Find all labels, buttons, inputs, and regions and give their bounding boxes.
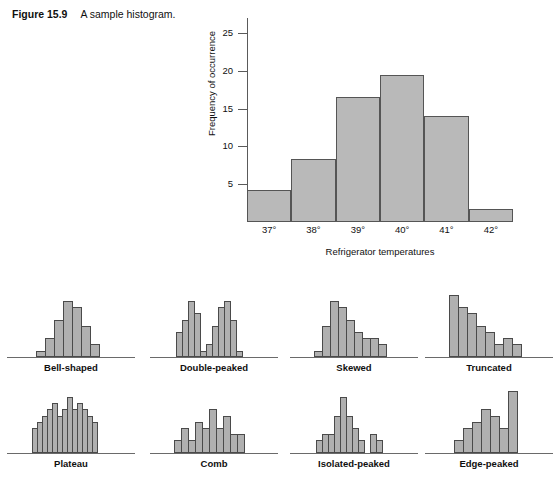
histogram-shape-panels: Bell-shapedDouble-peakedSkewedTruncatedP… [0, 292, 555, 478]
main-histogram: Frequency of occurrence 510152025 37°38°… [193, 6, 545, 268]
mini-plot-area [425, 390, 553, 454]
mini-plot-area [425, 294, 553, 358]
x-axis-label: Refrigerator temperatures [247, 246, 513, 257]
mini-plot-area [7, 294, 135, 358]
y-tick-label: 25 [222, 27, 233, 38]
mini-plot-area [150, 390, 278, 454]
histogram-bar [291, 159, 335, 222]
x-tick-label: 42° [469, 224, 513, 235]
mini-histogram-bar [378, 344, 387, 356]
mini-histogram-bar [358, 440, 365, 452]
mini-histogram-bars [36, 294, 106, 357]
y-tick: 25 [238, 33, 248, 34]
histogram-shape-panel: Bell-shaped [2, 292, 140, 382]
x-tick-label: 40° [380, 224, 424, 235]
figure-caption: Figure 15.9 A sample histogram. [12, 8, 192, 22]
figure-number: Figure 15.9 [12, 8, 67, 20]
y-tick-label: 5 [228, 178, 233, 189]
mini-histogram-bars [449, 294, 529, 357]
mini-baseline [7, 357, 135, 358]
mini-baseline [290, 357, 418, 358]
mini-plot-area [290, 294, 418, 358]
mini-baseline [150, 453, 278, 454]
y-tick: 20 [238, 71, 248, 72]
mini-histogram-bars [176, 294, 253, 357]
x-tick-label: 39° [336, 224, 380, 235]
mini-plot-area [7, 390, 135, 454]
y-tick: 15 [238, 109, 248, 110]
histogram-shape-panel: Double-peaked [145, 292, 283, 382]
panel-label: Truncated [420, 362, 555, 373]
mini-histogram-bars [314, 294, 395, 357]
mini-plot-area [150, 294, 278, 358]
x-tick-label: 38° [291, 224, 335, 235]
panel-label: Comb [145, 458, 283, 469]
mini-histogram-bars [454, 390, 524, 453]
histogram-bar [469, 209, 513, 222]
histogram-shape-panel: Plateau [2, 388, 140, 478]
panel-label: Plateau [2, 458, 140, 469]
mini-histogram-bar [512, 344, 522, 356]
histogram-bar [424, 116, 468, 222]
mini-baseline [425, 453, 553, 454]
histogram-shape-panel: Truncated [420, 292, 555, 382]
mini-baseline [425, 357, 553, 358]
mini-baseline [7, 453, 135, 454]
mini-histogram-bars [174, 390, 254, 453]
panel-label: Skewed [285, 362, 423, 373]
mini-histogram-bar [237, 434, 245, 453]
mini-histogram-bar [508, 391, 518, 453]
mini-histogram-bar [236, 351, 243, 357]
figure-caption-text: A sample histogram. [80, 8, 175, 20]
y-tick: 5 [238, 184, 248, 185]
mini-histogram-bar [376, 440, 383, 452]
y-tick-label: 15 [222, 103, 233, 114]
panel-label: Bell-shaped [2, 362, 140, 373]
histogram-shape-panel: Edge-peaked [420, 388, 555, 478]
mini-baseline [150, 357, 278, 358]
y-axis-label: Frequency of occurrence [206, 14, 217, 154]
plot-area: 510152025 37°38°39°40°41°42° [247, 18, 513, 222]
mini-histogram-bars [316, 390, 393, 453]
mini-baseline [290, 453, 418, 454]
histogram-shape-panel: Skewed [285, 292, 423, 382]
x-tick-label: 41° [424, 224, 468, 235]
histogram-bar [380, 75, 424, 222]
histogram-bar [336, 97, 380, 222]
panel-label: Double-peaked [145, 362, 283, 373]
panel-label: Isolated-peaked [285, 458, 423, 469]
histogram-bar [247, 190, 291, 222]
histogram-shape-panel: Comb [145, 388, 283, 478]
histogram-shape-panel: Isolated-peaked [285, 388, 423, 478]
x-tick-label: 37° [247, 224, 291, 235]
y-tick-label: 10 [222, 140, 233, 151]
panel-label: Edge-peaked [420, 458, 555, 469]
y-tick-label: 20 [222, 65, 233, 76]
y-tick: 10 [238, 146, 248, 147]
mini-histogram-bars [32, 390, 110, 453]
mini-histogram-bar [90, 344, 100, 356]
mini-plot-area [290, 390, 418, 454]
mini-histogram-bar [92, 422, 98, 453]
